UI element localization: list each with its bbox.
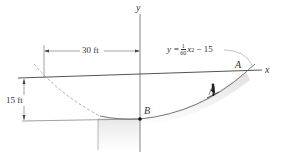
arrowhead-left (44, 50, 49, 53)
equation-exponent: 2 (191, 47, 194, 53)
equation-fraction: 1 60 (180, 43, 186, 56)
arrowhead-right (135, 50, 140, 53)
y-axis-label: y (136, 3, 140, 13)
diagram-canvas (0, 0, 287, 161)
arrowhead-up (23, 79, 26, 84)
point-b-label: B (144, 106, 150, 116)
equation-rhs: − 15 (196, 45, 212, 54)
fraction-numerator: 1 (181, 43, 186, 50)
ground-block-shading (98, 118, 140, 150)
parabola-equation: y = 1 60 x2 − 15 (167, 43, 213, 56)
ground-shading (98, 72, 250, 126)
equation-lhs: y = (167, 45, 179, 54)
dimension-label-15ft: 15 ft (6, 96, 23, 105)
point-a-label: A (235, 60, 241, 70)
x-axis-label: x (265, 65, 269, 75)
fraction-denominator: 60 (180, 50, 186, 56)
arrowhead-down (23, 115, 26, 120)
dimension-label-30ft: 30 ft (82, 46, 99, 55)
point-b-marker (138, 117, 142, 121)
